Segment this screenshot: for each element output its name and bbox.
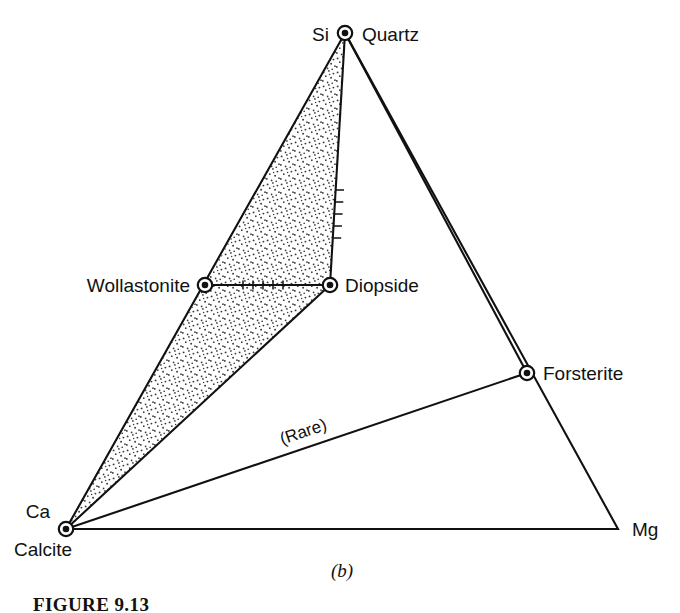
marker-diopside bbox=[323, 278, 337, 292]
label-mg: Mg bbox=[632, 519, 658, 540]
join-quartz-forsterite bbox=[345, 33, 527, 373]
marker-forsterite bbox=[520, 366, 534, 380]
panel-label: (b) bbox=[331, 560, 353, 582]
marker-calcite bbox=[59, 522, 73, 536]
marker-wollastonite bbox=[198, 278, 212, 292]
marker-quartz bbox=[338, 26, 352, 40]
label-diopside: Diopside bbox=[345, 275, 419, 296]
figure-root: Si Quartz Wollastonite Diopside Forsteri… bbox=[0, 0, 680, 613]
ternary-diagram: Si Quartz Wollastonite Diopside Forsteri… bbox=[0, 0, 680, 613]
label-ca: Ca bbox=[26, 501, 51, 522]
label-si: Si bbox=[312, 24, 329, 45]
label-wollastonite: Wollastonite bbox=[87, 275, 190, 296]
label-calcite: Calcite bbox=[14, 539, 72, 560]
label-forsterite: Forsterite bbox=[543, 363, 623, 384]
label-quartz: Quartz bbox=[362, 24, 419, 45]
figure-caption: FIGURE 9.13 bbox=[33, 594, 149, 613]
